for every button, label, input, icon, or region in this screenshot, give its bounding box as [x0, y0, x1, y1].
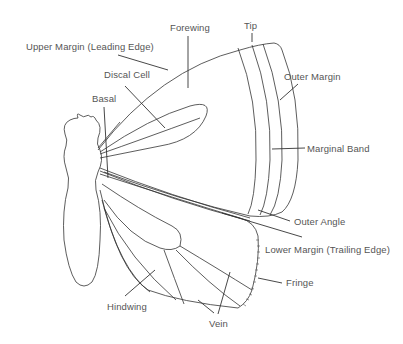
leader-basal: [104, 107, 108, 178]
leader-discal-cell: [125, 86, 165, 128]
leader-marginal-band: [272, 148, 305, 149]
hindwing-vein-2: [176, 250, 240, 306]
forewing-vein-1: [98, 122, 120, 148]
label-hindwing: Hindwing: [107, 302, 147, 312]
marginal-band-line-1: [238, 48, 256, 214]
hindwing-vein-1: [180, 246, 252, 290]
label-tip: Tip: [244, 21, 257, 31]
marginal-band-line-3: [263, 44, 282, 215]
marginal-band-line-2: [252, 45, 270, 215]
label-upper-margin: Upper Margin (Leading Edge): [26, 42, 154, 52]
label-basal: Basal: [92, 94, 116, 104]
leader-outer-angle: [258, 210, 290, 221]
label-fringe: Fringe: [286, 278, 314, 288]
moth-body: [64, 114, 102, 286]
moth-wing-diagram: Forewing Tip Upper Margin (Leading Edge)…: [0, 0, 403, 344]
label-vein: Vein: [209, 319, 228, 329]
leader-vein-2: [218, 272, 230, 314]
leader-upper-margin: [118, 55, 168, 70]
label-outer-margin: Outer Margin: [284, 72, 341, 82]
hindwing-vein-5: [102, 200, 150, 292]
label-forewing: Forewing: [170, 23, 210, 33]
leader-fringe: [258, 278, 282, 283]
label-marginal-band: Marginal Band: [307, 144, 370, 154]
leader-vein-1: [198, 300, 214, 313]
forewing-vein-2: [100, 118, 200, 154]
leader-outer-margin: [280, 84, 298, 100]
label-lower-margin: Lower Margin (Trailing Edge): [265, 245, 390, 255]
leader-hindwing: [125, 270, 155, 296]
label-discal-cell: Discal Cell: [104, 70, 150, 80]
discal-cell: [100, 104, 207, 158]
label-outer-angle: Outer Angle: [294, 217, 345, 227]
fringe-hatching: [243, 240, 260, 306]
